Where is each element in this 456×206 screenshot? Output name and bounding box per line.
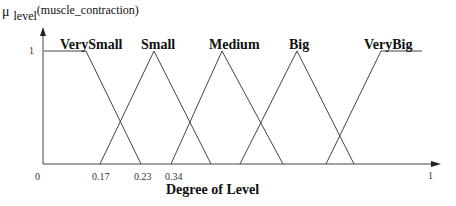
set-label-big: Big xyxy=(289,38,309,52)
mu-symbol: μ xyxy=(2,4,10,19)
curve-small xyxy=(100,51,211,164)
set-label-verybig: VeryBig xyxy=(364,38,412,52)
x-tick-034: 0.34 xyxy=(165,172,183,182)
y-tick-1: 1 xyxy=(29,46,34,56)
x-tick-0: 0 xyxy=(35,172,40,182)
y-axis-subscript: level xyxy=(14,9,37,23)
x-tick-017: 0.17 xyxy=(92,172,110,182)
curve-verybig xyxy=(326,51,422,164)
y-axis-paren: (muscle_contraction) xyxy=(37,3,139,17)
x-axis-arrow-icon xyxy=(431,161,441,167)
curve-big xyxy=(240,51,354,164)
set-label-medium: Medium xyxy=(209,38,260,52)
y-axis-title: μ level(muscle_contraction) xyxy=(2,3,139,19)
x-tick-023: 0.23 xyxy=(134,172,152,182)
curve-medium xyxy=(171,51,283,164)
membership-chart xyxy=(0,0,456,206)
set-label-verysmall: VerySmall xyxy=(60,38,122,52)
set-label-small: Small xyxy=(141,38,175,52)
x-axis-title: Degree of Level xyxy=(166,183,259,197)
x-tick-1: 1 xyxy=(428,171,433,181)
y-axis-arrow-icon xyxy=(40,27,46,36)
